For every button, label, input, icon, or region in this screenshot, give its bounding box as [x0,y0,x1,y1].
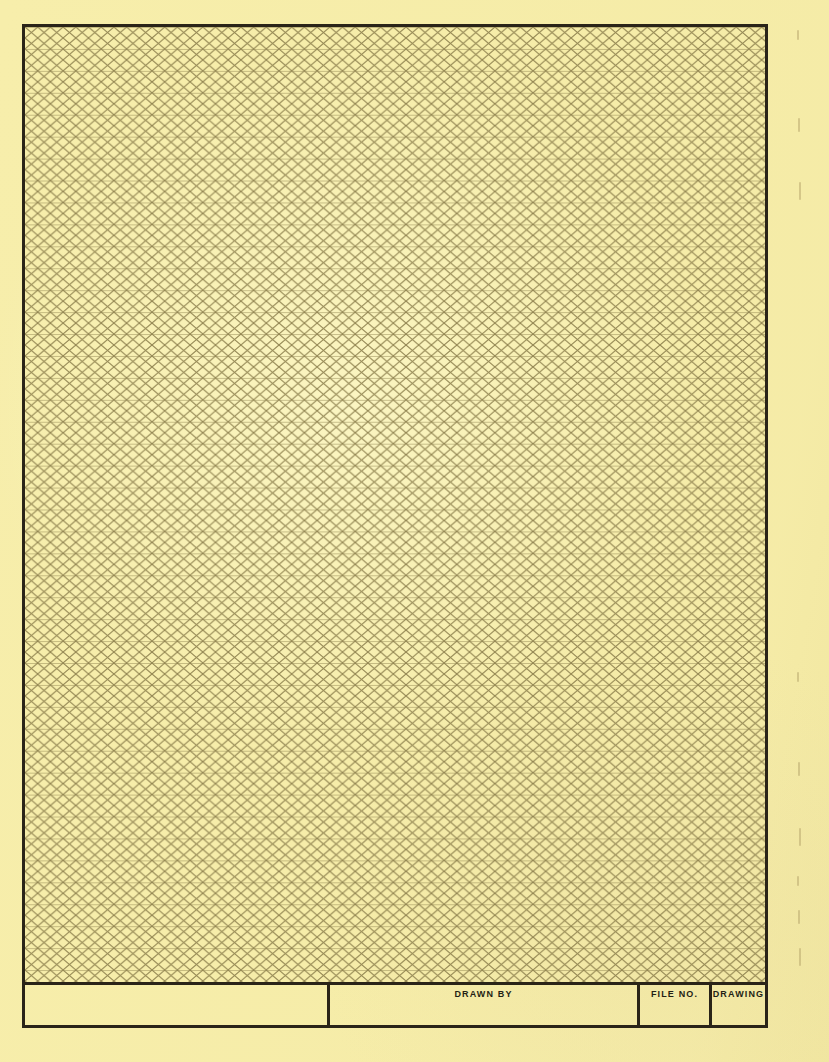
title-block-cell-drawing[interactable]: DRAWING [712,985,765,1025]
title-block-label-drawn-by: DRAWN BY [454,990,512,999]
title-block: DRAWN BY FILE NO. DRAWING [25,982,765,1025]
title-block-cell-blank[interactable] [25,985,330,1025]
graph-paper-sheet: DRAWN BY FILE NO. DRAWING [0,0,829,1062]
margin-tick-mark [799,182,801,200]
margin-tick-mark [799,828,801,846]
drawing-frame: DRAWN BY FILE NO. DRAWING [22,24,768,1028]
margin-tick-mark [797,672,799,682]
margin-tick-mark [797,30,799,40]
margin-tick-mark [799,948,801,966]
isometric-grid-area [25,27,765,982]
title-block-cell-file-no[interactable]: FILE NO. [640,985,712,1025]
isometric-grid [25,27,765,982]
title-block-label-drawing: DRAWING [713,990,765,999]
margin-tick-mark [798,910,800,924]
margin-tick-mark [798,762,800,776]
margin-tick-mark [798,118,800,132]
margin-tick-mark [797,876,799,886]
title-block-label-file-no: FILE NO. [651,990,698,999]
title-block-cell-drawn-by[interactable]: DRAWN BY [330,985,640,1025]
